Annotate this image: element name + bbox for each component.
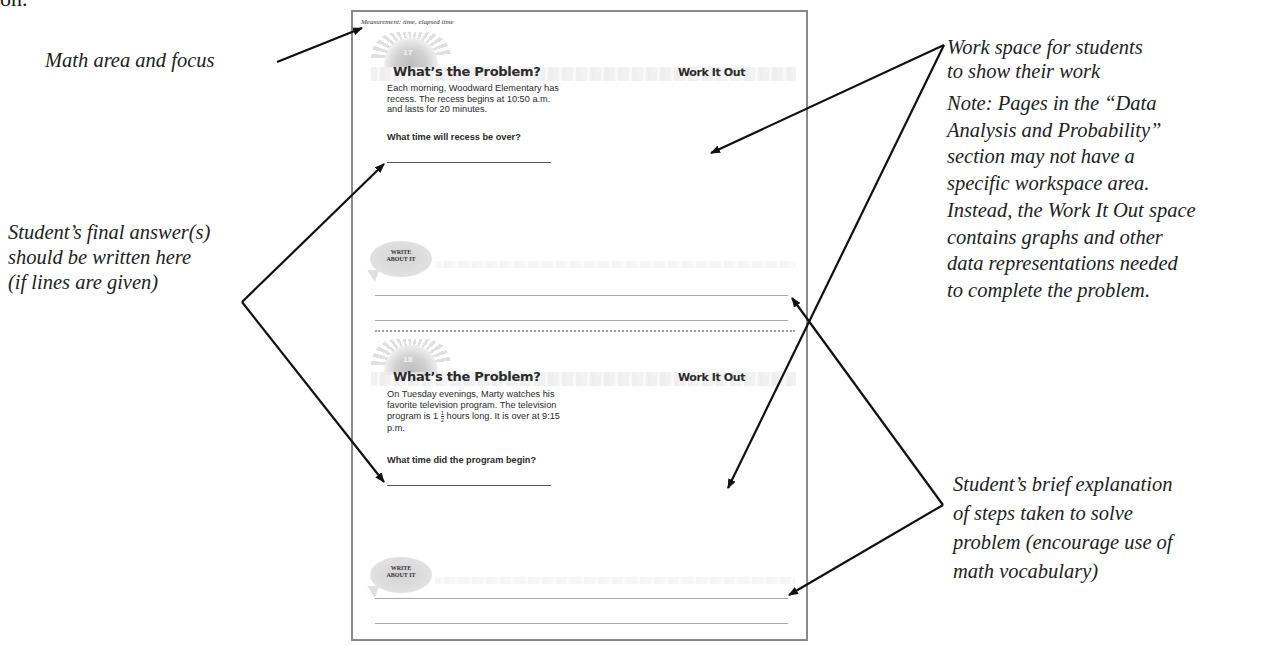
arrow-workspace-1-icon [711,45,944,153]
arrow-answer-1-icon [242,164,384,302]
arrow-answer-2-icon [242,302,384,482]
arrow-explanation-2-icon [789,505,943,595]
arrow-math-area-icon [277,28,362,62]
arrow-explanation-1-icon [792,298,943,505]
annotation-arrows [0,0,1262,646]
arrow-workspace-2-icon [728,45,944,488]
